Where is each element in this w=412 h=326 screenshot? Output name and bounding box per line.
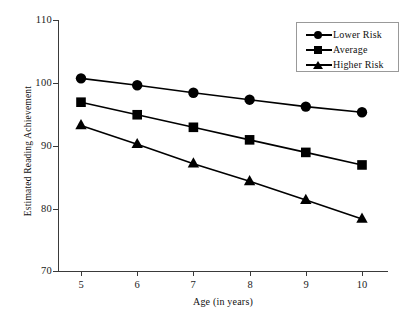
data-point-square [245,135,255,145]
series-line [81,78,362,112]
data-point-circle [132,80,142,90]
chart-legend: Lower Risk Average Higher Risk [296,22,399,72]
series-higher-risk [75,119,367,223]
data-point-square [76,97,86,107]
chart-figure: 110 100 90 80 70 5 6 7 8 9 10 Estimated … [0,0,412,326]
data-point-circle [301,101,311,111]
legend-item-higher-risk: Higher Risk [297,57,398,72]
series-line [81,125,362,219]
legend-item-label: Higher Risk [333,59,384,70]
data-point-square [189,123,199,133]
data-point-square [132,110,142,120]
square-marker-icon [305,44,333,56]
triangle-marker-icon [305,59,333,71]
data-point-circle [244,94,254,104]
legend-item-label: Lower Risk [333,29,382,40]
circle-marker-icon [305,29,333,41]
legend-item-label: Average [333,44,368,55]
data-point-square [357,160,367,170]
legend-item-lower-risk: Lower Risk [297,27,398,42]
data-point-circle [188,88,198,98]
data-point-circle [357,107,367,117]
data-point-square [301,148,311,158]
series-line [81,102,362,165]
data-point-circle [76,73,86,83]
legend-item-average: Average [297,42,398,57]
data-point-triangle [75,119,86,129]
